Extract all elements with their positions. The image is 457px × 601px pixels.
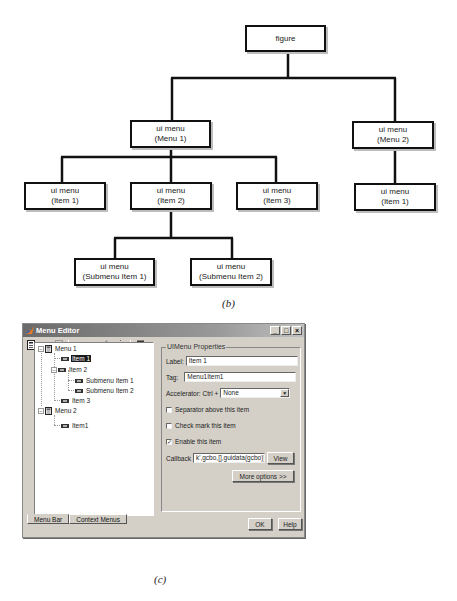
checkmark-checkbox-label: Check mark this item: [175, 422, 236, 429]
menu-item-icon: [75, 379, 83, 383]
menu-item-icon: [58, 368, 66, 372]
label-field-label: Label:: [166, 358, 184, 365]
node-menu-1: ui menu (Menu 1): [130, 120, 211, 148]
tree-item-menu2-item1[interactable]: Item1: [61, 421, 89, 430]
callback-field-row: Callback k',gcbo,[],guidata(gcbo)): [166, 453, 265, 463]
tree-item-label: Item 2: [68, 366, 88, 373]
label-input[interactable]: Item 1: [186, 356, 298, 366]
tree-item-label: Submenu Item 2: [85, 387, 135, 394]
view-button[interactable]: View: [267, 452, 294, 464]
node-type: ui menu: [379, 125, 407, 135]
dropdown-arrow-icon[interactable]: ▼: [280, 389, 289, 397]
node-submenu-item-2: ui menu (Submenu Item 2): [190, 258, 272, 286]
accelerator-label: Accelerator: Ctrl +: [166, 390, 218, 397]
separator-checkbox[interactable]: [166, 407, 172, 413]
tree-connector: [68, 380, 74, 381]
node-menu1-item-3: ui menu (Item 3): [236, 182, 318, 210]
tree-item-item-3[interactable]: Item 3: [61, 396, 91, 405]
tree-connector: [54, 353, 55, 399]
close-button[interactable]: ×: [292, 326, 302, 335]
node-label: figure: [275, 34, 295, 44]
tree-item-label: Submenu Item 1: [85, 377, 135, 384]
node-menu1-item-2: ui menu (Item 2): [130, 182, 212, 210]
enable-checkbox[interactable]: ✓: [166, 439, 172, 445]
tree-connector: [54, 400, 60, 401]
tree-connector: [54, 425, 60, 426]
caption-b: (b): [222, 297, 235, 309]
node-figure: figure: [245, 25, 326, 52]
maximize-button[interactable]: □: [281, 326, 291, 335]
menu-item-icon: [61, 357, 69, 361]
node-type: ui menu: [217, 262, 245, 272]
collapse-toggle[interactable]: −: [51, 367, 57, 373]
callback-input[interactable]: k',gcbo,[],guidata(gcbo)): [193, 453, 265, 463]
node-label: (Item 3): [263, 196, 291, 206]
node-label: (Item 1): [381, 197, 409, 207]
separator-checkbox-row[interactable]: Separator above this item: [166, 406, 249, 413]
tree-item-menu-1[interactable]: − Menu 1: [38, 344, 78, 353]
menu-editor-window: Menu Editor _ □ ×: [22, 323, 305, 538]
callback-label: Callback: [166, 455, 191, 462]
tree-connector: [68, 390, 74, 391]
enable-checkbox-row[interactable]: ✓ Enable this item: [166, 438, 221, 445]
matlab-logo-icon: [26, 326, 34, 335]
node-label: (Item 1): [51, 196, 79, 206]
menu-tree[interactable]: − Menu 1 Item 1 − Item 2 Submenu Item 1 …: [34, 342, 154, 516]
tag-field-row: Tag: Menu1Item1: [166, 372, 296, 382]
node-label: (Menu 1): [154, 134, 186, 144]
tree-item-label: Item 3: [71, 397, 91, 404]
node-type: ui menu: [381, 187, 409, 197]
collapse-toggle[interactable]: −: [38, 408, 44, 414]
tree-tabs: Menu Bar Context Menus: [27, 514, 127, 524]
tab-context-menus[interactable]: Context Menus: [69, 514, 127, 524]
window-title: Menu Editor: [36, 326, 79, 335]
tree-item-submenu-item-2[interactable]: Submenu Item 2: [75, 386, 135, 395]
node-menu1-item-1: ui menu (Item 1): [24, 182, 106, 210]
label-field-row: Label: Item 1: [166, 356, 298, 366]
tree-item-label: Item1: [71, 422, 89, 429]
tree-item-label: Menu 2: [54, 407, 78, 414]
tree-item-item-2[interactable]: − Item 2: [51, 365, 88, 374]
node-submenu-item-1: ui menu (Submenu Item 1): [74, 258, 155, 286]
accelerator-field-row: Accelerator: Ctrl + None ▼: [166, 388, 290, 398]
menu-item-icon: [61, 399, 69, 403]
accelerator-value: None: [223, 389, 239, 396]
menu-item-icon: [75, 389, 83, 393]
tab-menu-bar[interactable]: Menu Bar: [27, 514, 69, 524]
menu-icon: [45, 407, 52, 415]
tag-input[interactable]: Menu1Item1: [184, 372, 296, 382]
tree-connector: [54, 415, 55, 425]
tag-field-label: Tag:: [166, 374, 178, 381]
node-type: ui menu: [157, 186, 185, 196]
menu-item-icon: [61, 424, 69, 428]
title-bar[interactable]: Menu Editor _ □ ×: [23, 324, 304, 337]
node-type: ui menu: [263, 186, 291, 196]
tree-item-label: Item 1: [71, 355, 91, 362]
node-label: (Item 2): [157, 196, 185, 206]
checkmark-checkbox-row[interactable]: Check mark this item: [166, 422, 236, 429]
more-options-button[interactable]: More options >>: [232, 470, 294, 482]
node-type: ui menu: [156, 124, 184, 134]
tree-connector: [41, 353, 42, 406]
node-label: (Submenu Item 2): [199, 272, 263, 282]
accelerator-select[interactable]: None ▼: [220, 388, 290, 398]
enable-checkbox-label: Enable this item: [175, 438, 221, 445]
node-label: (Submenu Item 1): [82, 272, 146, 282]
tree-item-submenu-item-1[interactable]: Submenu Item 1: [75, 376, 135, 385]
ok-button[interactable]: OK: [248, 518, 272, 530]
tree-item-item-1[interactable]: Item 1: [61, 354, 91, 363]
caption-c: (c): [154, 573, 166, 585]
menu-icon: [45, 345, 52, 353]
tree-item-label: Menu 1: [54, 345, 78, 352]
node-label: (Menu 2): [377, 135, 409, 145]
collapse-toggle[interactable]: −: [38, 346, 44, 352]
help-button[interactable]: Help: [278, 518, 302, 530]
node-type: ui menu: [51, 186, 79, 196]
uimenu-properties-group: UIMenu Properties Label: Item 1 Tag: Men…: [161, 347, 301, 512]
node-menu-2: ui menu (Menu 2): [352, 121, 434, 149]
checkmark-checkbox[interactable]: [166, 423, 172, 429]
minimize-button[interactable]: _: [270, 326, 280, 335]
tree-item-menu-2[interactable]: − Menu 2: [38, 406, 78, 415]
tree-connector: [54, 358, 60, 359]
separator-checkbox-label: Separator above this item: [175, 406, 249, 413]
